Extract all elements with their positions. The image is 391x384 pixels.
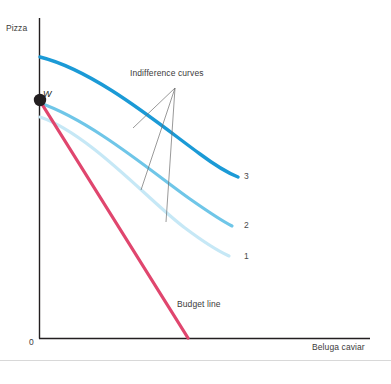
leader-line-to-curve-1 (166, 88, 175, 222)
budget-line-label: Budget line (177, 300, 221, 310)
indifference-curves-label: Indifference curves (130, 69, 204, 79)
x-axis-label: Beluga caviar (312, 343, 365, 353)
indifference-curve-2 (40, 103, 232, 226)
budget-line (40, 101, 188, 338)
y-axis-label: Pizza (6, 24, 27, 34)
curve-label-2: 2 (244, 221, 249, 231)
indifference-curve-figure: Pizza Beluga caviar 0 W Indifference cur… (0, 0, 391, 384)
plot-canvas (0, 0, 391, 384)
indifference-curve-1 (40, 117, 229, 256)
endowment-point-label: W (43, 89, 52, 99)
curve-label-3: 3 (244, 172, 249, 182)
curve-label-1: 1 (244, 252, 249, 262)
origin-label: 0 (29, 338, 34, 348)
